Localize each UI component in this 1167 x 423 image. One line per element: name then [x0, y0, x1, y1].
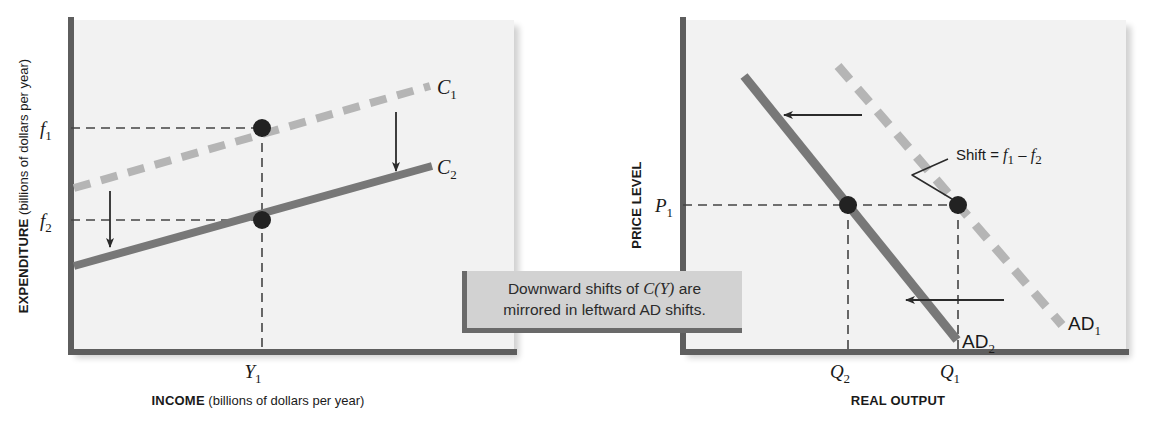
left-ytick-f2: f2	[40, 210, 52, 235]
left-plot-area	[70, 20, 514, 352]
callout-line1-italic: C(Y)	[643, 279, 674, 298]
figure-canvas: C1 C2 f1 f2 Y1 EXPENDITURE (billions of …	[0, 0, 1167, 423]
right-x-axis-title: REAL OUTPUT	[851, 393, 945, 408]
left-y-axis-title: EXPENDITURE (billions of dollars per yea…	[16, 59, 31, 313]
callout-text: Downward shifts of C(Y) are mirrored in …	[497, 278, 711, 321]
callout-line2: mirrored in leftward AD shifts.	[503, 301, 705, 318]
right-point-q2	[839, 196, 857, 214]
left-ytick-f1: f1	[40, 118, 52, 143]
right-xtick-q2: Q2	[830, 361, 850, 386]
economics-figure: C1 C2 f1 f2 Y1 EXPENDITURE (billions of …	[0, 0, 1167, 423]
callout-line1-post: are	[674, 280, 701, 297]
right-y-axis-title: PRICE LEVEL	[629, 161, 644, 248]
left-panel: C1 C2 f1 f2 Y1 EXPENDITURE (billions of …	[16, 20, 516, 408]
right-plot-area	[682, 20, 1126, 352]
left-x-axis-title: INCOME (billions of dollars per year)	[152, 393, 365, 408]
callout-box: Downward shifts of C(Y) are mirrored in …	[462, 271, 742, 333]
left-point-f1	[253, 119, 271, 137]
right-xtick-q1: Q1	[940, 361, 960, 386]
right-panel: Shift = f1 – f2 AD1 AD2 P1 Q2 Q1 PRICE L…	[629, 20, 1128, 408]
right-ytick-p1: P1	[654, 195, 673, 220]
left-xtick-y1: Y1	[244, 361, 261, 386]
left-point-f2	[253, 211, 271, 229]
callout-line1-pre: Downward shifts of	[508, 280, 643, 297]
